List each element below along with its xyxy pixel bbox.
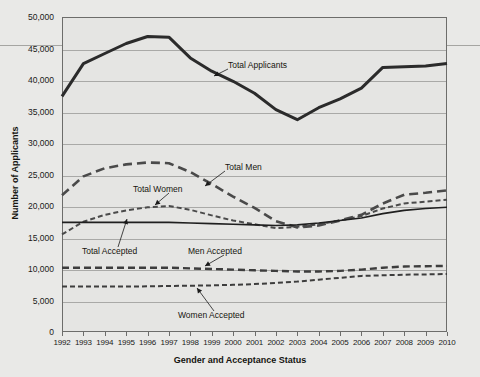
x-tick-mark [62,332,63,336]
y-axis-tick-labels: 05,00010,00015,00020,00025,00030,00035,0… [0,0,480,377]
y-tick-label: 40,000 [2,75,54,85]
x-tick-label: 2003 [289,338,306,347]
x-tick-mark [83,332,84,336]
x-tick-label: 2002 [267,338,284,347]
x-tick-label: 2005 [332,338,349,347]
x-tick-label: 1995 [118,338,135,347]
x-tick-mark [426,332,427,336]
y-tick-label: 0 [2,327,54,337]
x-tick-label: 2006 [353,338,370,347]
x-tick-label: 1992 [54,338,71,347]
x-tick-mark [383,332,384,336]
x-tick-mark [404,332,405,336]
x-tick-label: 2004 [310,338,327,347]
x-tick-label: 2000 [225,338,242,347]
x-tick-label: 2001 [246,338,263,347]
x-tick-mark [319,332,320,336]
x-axis-title: Gender and Acceptance Status [0,355,480,365]
x-tick-label: 1998 [182,338,199,347]
series-label-men-accepted: Men Accepted [188,246,242,256]
x-tick-mark [447,332,448,336]
x-tick-mark [169,332,170,336]
x-tick-label: 1997 [160,338,177,347]
chart-root: 05,00010,00015,00020,00025,00030,00035,0… [0,0,480,377]
series-label-total-accepted: Total Accepted [82,246,137,256]
y-axis-title: Number of Applicants [10,113,20,233]
x-tick-mark [126,332,127,336]
y-tick-label: 5,000 [2,296,54,306]
x-tick-label: 2008 [396,338,413,347]
x-tick-mark [105,332,106,336]
y-tick-label: 45,000 [2,44,54,54]
series-label-total-women: Total Women [133,184,182,194]
x-tick-mark [233,332,234,336]
series-label-total-applicants: Total Applicants [228,60,287,70]
x-tick-label: 1994 [96,338,113,347]
series-label-women-accepted: Women Accepted [178,310,244,320]
x-tick-mark [148,332,149,336]
x-tick-label: 1993 [75,338,92,347]
x-tick-label: 2009 [417,338,434,347]
x-tick-label: 1996 [139,338,156,347]
series-label-total-men: Total Men [225,162,262,172]
y-tick-label: 10,000 [2,264,54,274]
y-tick-label: 15,000 [2,233,54,243]
x-tick-label: 1999 [203,338,220,347]
x-tick-mark [361,332,362,336]
x-tick-mark [190,332,191,336]
x-tick-label: 2007 [374,338,391,347]
x-tick-mark [212,332,213,336]
x-tick-mark [255,332,256,336]
x-tick-label: 2010 [439,338,456,347]
x-tick-mark [276,332,277,336]
y-tick-label: 50,000 [2,12,54,22]
x-tick-mark [297,332,298,336]
x-tick-mark [340,332,341,336]
